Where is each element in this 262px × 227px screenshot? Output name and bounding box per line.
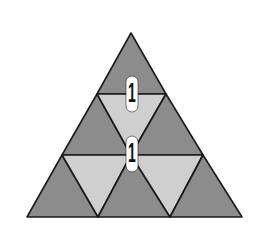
label-upper: 1 (126, 76, 138, 112)
label-upper-text: 1 (128, 78, 136, 108)
triangle-grid (27, 33, 242, 217)
label-lower-text: 1 (128, 138, 136, 168)
label-lower: 1 (126, 136, 138, 172)
triangle-diagram: 1 1 (0, 0, 262, 227)
